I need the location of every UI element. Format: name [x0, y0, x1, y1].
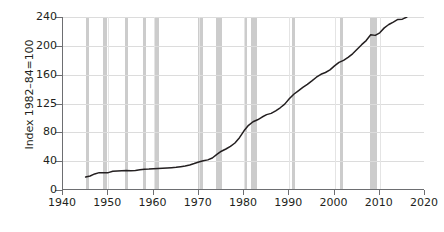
- cpi-index-chart: Index 1982–84=100 04080125160200240 1940…: [0, 0, 444, 232]
- y-axis-title: Index 1982–84=100: [23, 10, 36, 180]
- y-tick-label-wrap: 80: [0, 126, 57, 137]
- x-tick-mark: [153, 190, 154, 195]
- plot-area: [62, 17, 424, 190]
- y-tick-label-wrap: 240: [0, 11, 57, 22]
- y-tick-label-wrap: 160: [0, 69, 57, 80]
- y-tick-label-wrap: 200: [0, 40, 57, 51]
- y-tick-label: 0: [7, 184, 57, 195]
- y-tick-label: 200: [7, 40, 57, 51]
- x-tick-label: 2020: [394, 197, 444, 209]
- series-consumer-price-index: [63, 17, 424, 190]
- y-tick-label-wrap: 0: [0, 184, 57, 195]
- x-tick-mark: [62, 190, 63, 195]
- y-tick-label-wrap: 40: [0, 155, 57, 166]
- x-tick-mark: [288, 190, 289, 195]
- y-tick-label: 80: [7, 126, 57, 137]
- x-tick-mark: [243, 190, 244, 195]
- y-tick-label: 125: [7, 98, 57, 109]
- y-tick-label-wrap: 125: [0, 98, 57, 109]
- y-tick-label: 160: [7, 69, 57, 80]
- x-tick-mark: [198, 190, 199, 195]
- x-tick-mark: [107, 190, 108, 195]
- x-tick-mark: [379, 190, 380, 195]
- y-tick-label: 240: [7, 11, 57, 22]
- x-tick-mark: [334, 190, 335, 195]
- x-tick-mark: [424, 190, 425, 195]
- y-tick-label: 40: [7, 155, 57, 166]
